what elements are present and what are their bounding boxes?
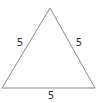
triangle-diagram: 5 5 5: [0, 0, 96, 103]
side-label-left: 5: [17, 37, 23, 48]
side-label-bottom: 5: [48, 90, 54, 101]
triangle: [2, 8, 95, 88]
side-label-right: 5: [76, 37, 82, 48]
